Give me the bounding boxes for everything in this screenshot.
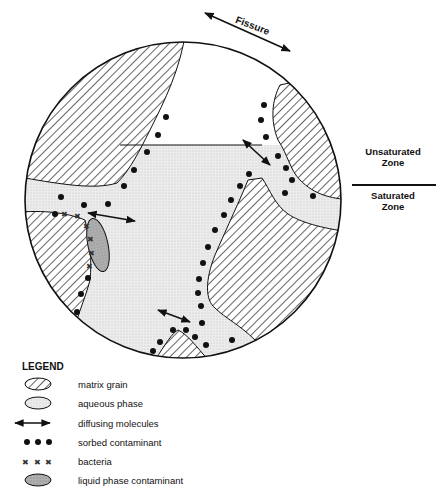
stippled-ellipse-icon <box>18 395 58 412</box>
legend-item-bacteria: bacteria <box>18 453 112 470</box>
legend-item-liquid-phase-contaminant: liquid phase contaminant <box>18 472 183 489</box>
circle-content: ✖✖ ✖✖ ✖✖ <box>20 30 350 365</box>
crosses-icon <box>18 453 58 470</box>
zone-divider <box>352 184 436 186</box>
legend-label: aqueous phase <box>78 398 143 409</box>
legend-label: matrix grain <box>78 379 128 390</box>
legend-item-sorbed-contaminant: sorbed contaminant <box>18 434 161 451</box>
saturated-line1: Saturated <box>350 190 436 201</box>
unsaturated-line1: Unsaturated <box>350 146 436 157</box>
svg-text:✖: ✖ <box>88 249 95 258</box>
matrix-grain-left <box>20 211 91 360</box>
svg-text:✖: ✖ <box>83 222 90 231</box>
saturated-line2: Zone <box>350 201 436 212</box>
legend-item-diffusing-molecules: diffusing molecules <box>18 415 159 432</box>
legend-label: diffusing molecules <box>78 418 159 429</box>
unsaturated-line2: Zone <box>350 157 436 168</box>
legend-label: bacteria <box>78 456 112 467</box>
svg-text:✖: ✖ <box>86 262 93 271</box>
dark-stippled-ellipse-icon <box>18 472 58 489</box>
svg-text:✖: ✖ <box>74 212 81 221</box>
legend-label: sorbed contaminant <box>78 437 161 448</box>
legend-item-matrix-grain: matrix grain <box>18 376 128 393</box>
legend-title: LEGEND <box>22 361 64 372</box>
svg-text:✖: ✖ <box>61 210 68 219</box>
saturated-zone-label: Saturated Zone <box>350 190 436 212</box>
dots-icon <box>18 434 58 451</box>
svg-text:✖: ✖ <box>87 235 94 244</box>
legend-item-aqueous-phase: aqueous phase <box>18 395 143 412</box>
double-arrow-icon <box>18 415 58 432</box>
legend-label: liquid phase contaminant <box>78 475 183 486</box>
unsaturated-zone-label: Unsaturated Zone <box>350 146 436 168</box>
hatched-ellipse-icon <box>18 376 58 393</box>
